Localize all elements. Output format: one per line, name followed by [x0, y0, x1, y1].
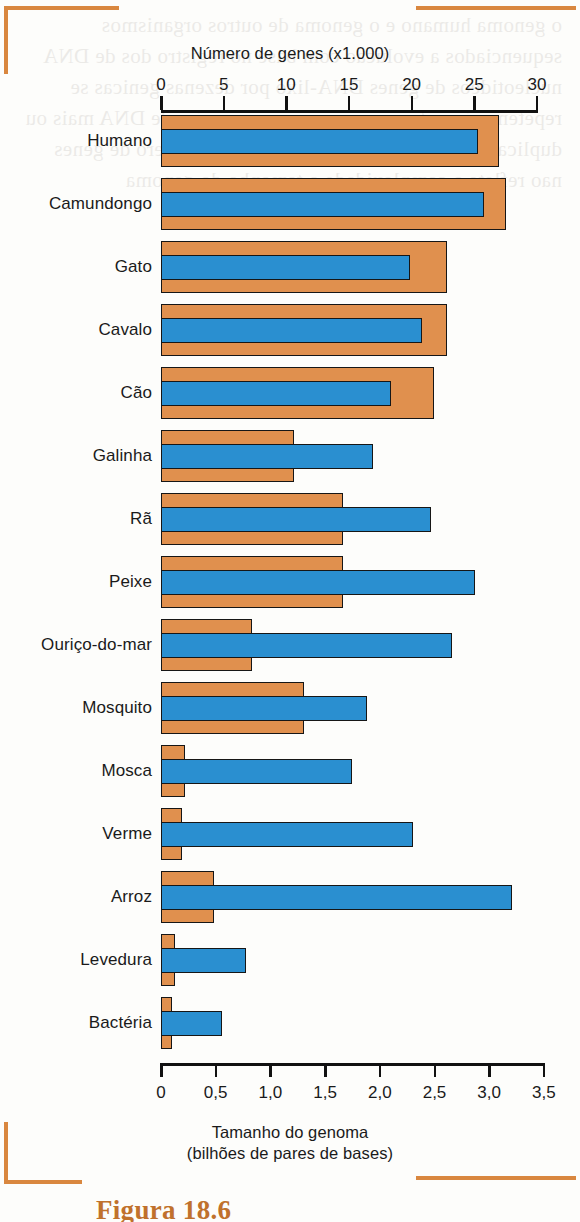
bottom-axis-tick	[269, 1063, 272, 1077]
bar-group	[161, 304, 561, 356]
bottom-axis-tick-label: 1,0	[248, 1083, 292, 1103]
top-axis-tick	[285, 96, 288, 110]
bar-group	[161, 808, 561, 860]
bar-group	[161, 934, 561, 986]
category-label-mosca: Mosca	[101, 761, 152, 781]
category-label-peixe: Peixe	[109, 572, 152, 592]
category-label-bact-ria: Bactéria	[89, 1013, 152, 1033]
top-axis-tick	[473, 96, 476, 110]
genome-size-bar	[161, 318, 422, 343]
category-label-ouri-o-do-mar: Ouriço-do-mar	[41, 635, 152, 655]
category-label-cavalo: Cavalo	[98, 320, 152, 340]
genome-size-bar	[161, 1011, 222, 1036]
bottom-axis-title-line2: (bilhões de pares de bases)	[0, 1143, 580, 1164]
category-label-arroz: Arroz	[111, 887, 152, 907]
bottom-axis-tick-label: 0	[139, 1083, 183, 1103]
genome-size-bar	[161, 129, 478, 154]
bottom-axis-tick	[543, 1063, 546, 1077]
top-axis-tick	[411, 96, 414, 110]
corner-bracket-bottom-right-horizontal	[416, 1176, 576, 1180]
bottom-axis-line	[161, 1063, 544, 1066]
category-label-galinha: Galinha	[93, 446, 152, 466]
bar-group	[161, 871, 561, 923]
bottom-axis-tick	[160, 1063, 163, 1077]
bottom-axis-tick-label: 2,5	[413, 1083, 457, 1103]
corner-bracket-top-left-horizontal	[4, 6, 119, 10]
category-label-camundongo: Camundongo	[49, 194, 152, 214]
genome-size-bar	[161, 570, 475, 595]
bar-group	[161, 115, 561, 167]
top-axis-tick-label: 0	[139, 75, 183, 95]
bottom-axis-tick-label: 1,5	[303, 1083, 347, 1103]
bar-group	[161, 682, 561, 734]
bottom-axis-title: Tamanho do genoma (bilhões de pares de b…	[0, 1122, 580, 1164]
bar-group	[161, 241, 561, 293]
category-label-c-o: Cão	[121, 383, 153, 403]
top-axis-tick-label: 25	[452, 75, 496, 95]
genome-size-bar	[161, 444, 373, 469]
bottom-axis-tick	[434, 1063, 437, 1077]
genome-size-bar	[161, 507, 431, 532]
top-axis-tick	[160, 96, 163, 110]
top-axis-tick-label: 30	[515, 75, 559, 95]
genome-size-bar	[161, 381, 391, 406]
category-label-verme: Verme	[102, 824, 152, 844]
category-label-mosquito: Mosquito	[82, 698, 152, 718]
bottom-axis-title-line1: Tamanho do genoma	[0, 1122, 580, 1143]
genome-size-bar	[161, 255, 410, 280]
genome-size-bar	[161, 885, 512, 910]
bar-group	[161, 556, 561, 608]
genome-size-bar	[161, 633, 452, 658]
genome-size-bar	[161, 948, 246, 973]
corner-bracket-top-left-vertical	[4, 6, 8, 74]
category-label-humano: Humano	[87, 131, 152, 151]
plot-area	[161, 113, 561, 1061]
bar-group	[161, 745, 561, 797]
genome-size-bar	[161, 192, 484, 217]
bar-group	[161, 493, 561, 545]
top-axis-tick	[348, 96, 351, 110]
bottom-axis-tick-label: 3,5	[522, 1083, 566, 1103]
category-labels: HumanoCamundongoGatoCavaloCãoGalinhaRãPe…	[0, 113, 152, 1061]
top-axis-tick	[536, 96, 539, 110]
top-axis-tick-label: 5	[202, 75, 246, 95]
bar-group	[161, 997, 561, 1049]
top-axis-tick-label: 20	[390, 75, 434, 95]
bar-group	[161, 619, 561, 671]
category-label-gato: Gato	[115, 257, 152, 277]
genome-size-bar	[161, 822, 413, 847]
bar-group	[161, 430, 561, 482]
genome-size-bar	[161, 696, 367, 721]
genome-size-bar	[161, 759, 352, 784]
bottom-axis-tick-label: 3,0	[467, 1083, 511, 1103]
corner-bracket-top-right-horizontal	[416, 6, 576, 10]
bar-group	[161, 367, 561, 419]
genome-comparison-chart: Número de genes (x1.000) 051015202530 Hu…	[0, 0, 580, 1222]
bar-group	[161, 178, 561, 230]
top-axis-tick-label: 15	[327, 75, 371, 95]
bottom-axis-tick	[324, 1063, 327, 1077]
top-axis-title: Número de genes (x1.000)	[0, 44, 580, 63]
corner-bracket-bottom-left-vertical	[4, 1122, 8, 1184]
bottom-axis-tick	[379, 1063, 382, 1077]
bottom-axis-tick-label: 0,5	[194, 1083, 238, 1103]
top-axis-tick	[223, 96, 226, 110]
top-axis-tick-label: 10	[264, 75, 308, 95]
corner-bracket-bottom-left-horizontal	[4, 1180, 82, 1184]
category-label-levedura: Levedura	[80, 950, 152, 970]
bottom-axis-tick-label: 2,0	[358, 1083, 402, 1103]
figure-caption: Figura 18.6	[96, 1195, 231, 1222]
category-label-r-: Rã	[130, 509, 152, 529]
bottom-axis-tick	[488, 1063, 491, 1077]
bottom-axis-tick	[215, 1063, 218, 1077]
